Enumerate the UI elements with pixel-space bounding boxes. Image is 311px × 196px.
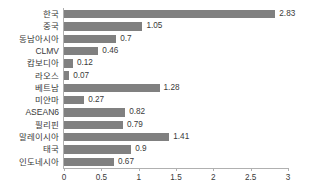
x-axis-tick-label: 2.5 bbox=[236, 172, 266, 184]
x-axis-tick-label: 2 bbox=[198, 172, 228, 184]
x-axis-tick-label: 1.5 bbox=[161, 172, 191, 184]
bar-row: CLMV0.46 bbox=[0, 45, 311, 57]
bar bbox=[64, 10, 275, 18]
bar bbox=[64, 158, 114, 166]
bar-value-label: 1.41 bbox=[169, 131, 189, 143]
x-axis-tick-label: 1 bbox=[124, 172, 154, 184]
category-label: 한국 bbox=[0, 8, 59, 20]
category-label: 미얀마 bbox=[0, 94, 59, 106]
bar bbox=[64, 133, 169, 141]
bar-value-label: 2.83 bbox=[275, 8, 295, 20]
bar-value-label: 0.46 bbox=[98, 45, 118, 57]
bar-chart: 한국2.83중국1.05동남아시아0.7CLMV0.46캄보디아0.12라오스0… bbox=[0, 0, 311, 196]
bar-rows: 한국2.83중국1.05동남아시아0.7CLMV0.46캄보디아0.12라오스0… bbox=[0, 8, 311, 168]
x-axis-tick-labels: 00.511.522.53 bbox=[0, 172, 311, 186]
category-label: 베트남 bbox=[0, 82, 59, 94]
category-label: ASEAN6 bbox=[0, 106, 59, 118]
bar bbox=[64, 121, 123, 129]
bar-row: 미얀마0.27 bbox=[0, 94, 311, 106]
bar-row: 동남아시아0.7 bbox=[0, 33, 311, 45]
x-axis-tick-mark bbox=[139, 168, 140, 171]
bar-row: 말레이시아1.41 bbox=[0, 131, 311, 143]
bar-value-label: 0.7 bbox=[116, 33, 131, 45]
bar-row: 인도네시아0.67 bbox=[0, 156, 311, 168]
bar bbox=[64, 96, 84, 104]
category-label: 동남아시아 bbox=[0, 33, 59, 45]
x-axis-tick-label: 0.5 bbox=[86, 172, 116, 184]
bar bbox=[64, 22, 142, 30]
x-axis-tick-mark bbox=[251, 168, 252, 171]
category-label: CLMV bbox=[0, 45, 59, 57]
category-label: 태국 bbox=[0, 143, 59, 155]
category-label: 인도네시아 bbox=[0, 156, 59, 168]
bar-value-label: 1.05 bbox=[142, 20, 162, 32]
bar bbox=[64, 35, 116, 43]
bar bbox=[64, 108, 125, 116]
bar-row: 캄보디아0.12 bbox=[0, 57, 311, 69]
x-axis-tick-label: 0 bbox=[49, 172, 79, 184]
category-label: 필리핀 bbox=[0, 119, 59, 131]
bar-value-label: 0.27 bbox=[84, 94, 104, 106]
bar-row: 한국2.83 bbox=[0, 8, 311, 20]
bar-value-label: 0.82 bbox=[125, 106, 145, 118]
bar-row: 중국1.05 bbox=[0, 20, 311, 32]
bar-row: 베트남1.28 bbox=[0, 82, 311, 94]
bar-value-label: 0.67 bbox=[114, 156, 134, 168]
bar-value-label: 0.79 bbox=[123, 119, 143, 131]
bar-row: 필리핀0.79 bbox=[0, 119, 311, 131]
bar bbox=[64, 59, 73, 67]
x-axis-tick-mark bbox=[213, 168, 214, 171]
bar-value-label: 0.07 bbox=[69, 70, 89, 82]
x-axis-tick-mark bbox=[64, 168, 65, 171]
x-axis-tick-mark bbox=[176, 168, 177, 171]
bar bbox=[64, 84, 160, 92]
bar-row: ASEAN60.82 bbox=[0, 106, 311, 118]
x-axis-tick-label: 3 bbox=[273, 172, 303, 184]
bar bbox=[64, 145, 131, 153]
category-label: 라오스 bbox=[0, 70, 59, 82]
bar-value-label: 0.12 bbox=[73, 57, 93, 69]
bar-row: 태국0.9 bbox=[0, 143, 311, 155]
category-label: 말레이시아 bbox=[0, 131, 59, 143]
bar-value-label: 0.9 bbox=[131, 143, 146, 155]
bar-value-label: 1.28 bbox=[160, 82, 180, 94]
x-axis-tick-mark bbox=[288, 168, 289, 171]
category-label: 캄보디아 bbox=[0, 57, 59, 69]
x-axis-tick-mark bbox=[101, 168, 102, 171]
category-label: 중국 bbox=[0, 20, 59, 32]
bar bbox=[64, 47, 98, 55]
bar-row: 라오스0.07 bbox=[0, 70, 311, 82]
